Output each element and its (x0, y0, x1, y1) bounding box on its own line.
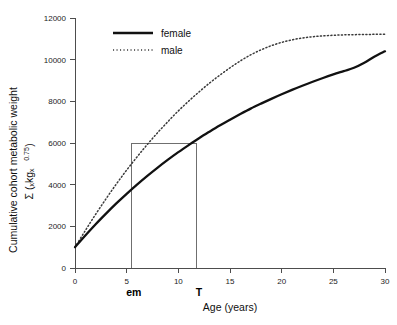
y-tick-label: 12000 (44, 14, 67, 23)
y-tick-label: 2000 (48, 222, 66, 231)
axis-annotations-group: emT (126, 286, 202, 298)
y-axis-title-exponent: 0.75 (23, 147, 30, 161)
x-tick-label: 0 (73, 277, 78, 286)
x-tick-label: 5 (124, 277, 129, 286)
x-tick-label: 30 (381, 277, 390, 286)
y-axis-title-line1: Cumulative cohort metabolic weight (7, 87, 19, 253)
legend-label-male: male (161, 45, 183, 56)
x-tick-label: 25 (329, 277, 338, 286)
y-tick-label: 10000 (44, 56, 67, 65)
y-axis-title-group: Cumulative cohort metabolic weight Σ (ₓk… (7, 87, 35, 253)
y-axis-ticks: 020004000600080001000012000 (44, 14, 75, 273)
metabolic-weight-line-chart: Cumulative cohort metabolic weight Σ (ₓk… (0, 0, 397, 325)
legend-label-female: female (161, 28, 191, 39)
y-axis-title-line2-group: Σ (ₓkgₓ 0.75 ) (23, 143, 35, 199)
x-tick-label: 15 (226, 277, 235, 286)
annotation-label-t: T (196, 286, 203, 298)
y-tick-label: 0 (62, 264, 67, 273)
y-axis-title-line2: Σ (ₓkgₓ (23, 168, 35, 199)
y-axis-title-line2-close: ) (23, 143, 35, 147)
x-axis-title: Age (years) (203, 301, 257, 313)
y-tick-label: 4000 (48, 181, 66, 190)
legend: female male (113, 28, 191, 56)
y-tick-label: 6000 (48, 139, 66, 148)
chart-figure: Cumulative cohort metabolic weight Σ (ₓk… (0, 0, 397, 325)
series-line-male (75, 34, 385, 247)
x-tick-label: 10 (174, 277, 183, 286)
x-axis-ticks: 051015202530 (73, 268, 390, 286)
y-tick-label: 8000 (48, 97, 66, 106)
series-line-female (75, 51, 385, 247)
x-tick-label: 20 (277, 277, 286, 286)
annotation-label-em: em (126, 286, 141, 298)
